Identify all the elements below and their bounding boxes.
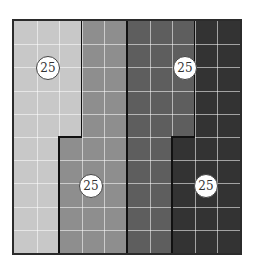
region-boundary [81, 21, 83, 137]
region-boundary [58, 136, 82, 138]
region-3-count-label: 25 [173, 56, 197, 80]
region-4-count-label: 25 [194, 174, 218, 198]
region-2-count-label: 25 [79, 174, 103, 198]
region-1-count-label: 25 [36, 56, 60, 80]
region-boundary [126, 137, 128, 253]
hundred-grid-diagram [12, 19, 242, 255]
region-boundary [171, 137, 173, 253]
region-boundary [126, 21, 128, 137]
region-boundary [58, 137, 60, 253]
region-boundary [171, 136, 195, 138]
region-boundary [194, 21, 196, 137]
